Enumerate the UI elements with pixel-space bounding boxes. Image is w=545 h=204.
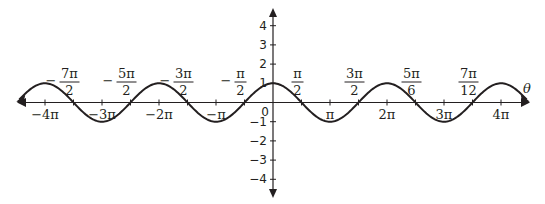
cosine-graph: θ 0 −4π−3π−2π−ππ2π3π4π 4321−1−2−3−4 −7π2… [0,0,545,204]
fraction-label: −5π2 [103,66,137,98]
fraction-numerator: 7π [61,66,78,81]
x-tick-label: π [326,107,335,122]
fraction-sign: − [46,73,57,88]
fraction-sign: − [160,73,171,88]
fraction-numerator: 3π [346,66,363,81]
fraction-denominator: 2 [122,83,130,98]
fraction-denominator: 2 [179,83,187,98]
x-tick-label: −2π [145,107,173,122]
x-tick-label: 2π [379,107,396,122]
fraction-numerator: 3π [175,66,192,81]
y-tick-label: 4 [259,19,267,33]
fraction-numerator: 7π [460,66,477,81]
fraction-numerator: π [293,66,302,81]
x-axis-label: θ [523,81,531,96]
fraction-sign: − [103,73,114,88]
y-axis-down-arrow [269,189,277,198]
fraction-numerator: π [236,66,245,81]
y-tick-label: −3 [249,153,267,167]
y-tick-label: −4 [249,172,267,186]
x-tick-label: −4π [31,107,59,122]
fraction-denominator: 2 [236,83,244,98]
fraction-denominator: 12 [460,83,477,98]
fraction-denominator: 2 [65,83,73,98]
fraction-sign: − [221,73,232,88]
fraction-label: 7π12 [459,66,479,98]
fraction-label: 3π2 [345,66,365,98]
y-axis-up-arrow [269,8,277,17]
fraction-label: 5π6 [402,66,422,98]
fraction-label: −3π2 [160,66,194,98]
fraction-denominator: 2 [293,83,301,98]
fraction-numerator: 5π [403,66,420,81]
fraction-denominator: 2 [350,83,358,98]
fraction-label: −π2 [221,66,247,98]
y-tick-label: 3 [259,38,267,52]
y-tick-label: −1 [249,115,267,129]
fraction-label: π2 [292,66,304,98]
axes: θ 0 [17,8,531,198]
y-tick-label: 2 [259,57,267,71]
fraction-denominator: 6 [407,83,415,98]
y-tick-label: −2 [249,134,267,148]
fraction-label: −7π2 [46,66,80,98]
x-tick-label: 3π [436,107,453,122]
x-tick-label: 4π [493,107,510,122]
fraction-numerator: 5π [118,66,135,81]
